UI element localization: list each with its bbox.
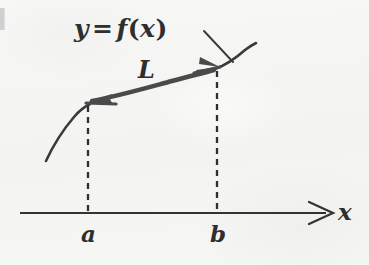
- equation-open-paren: (: [128, 14, 140, 43]
- function-label-leader-line: [204, 31, 233, 62]
- equation-close-paren: ): [156, 14, 168, 43]
- lower-bound-label: a: [81, 222, 96, 245]
- curve-left-tail: [46, 104, 90, 161]
- x-axis-label: x: [338, 200, 352, 223]
- equation-y: y: [74, 14, 89, 43]
- equation-argument: x: [140, 14, 155, 43]
- equation-equals: =: [92, 14, 113, 43]
- upper-bound-label: b: [210, 222, 227, 245]
- arc-length-figure: y=f(x) L a b x: [0, 0, 369, 265]
- curve-equation-label: y=f(x): [74, 16, 168, 41]
- equation-f: f: [116, 14, 127, 43]
- arc-length-label: L: [138, 58, 155, 82]
- figure-canvas: [0, 0, 369, 265]
- curve-right-tail: [215, 43, 256, 69]
